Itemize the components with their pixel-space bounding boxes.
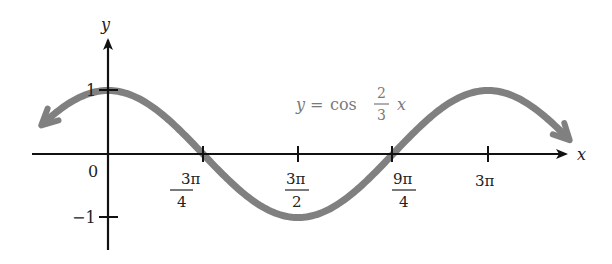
x-tick-3pi-over-4: 3π 4	[170, 146, 203, 211]
x-tick-denominator: 4	[177, 193, 187, 211]
x-tick-denominator: 4	[399, 193, 409, 211]
x-tick-numerator: 9π	[393, 170, 413, 188]
x-tick-numerator: 3π	[286, 170, 306, 188]
x-axis-label: x	[577, 145, 586, 164]
equation-equals: =	[310, 95, 323, 114]
x-tick-denominator: 2	[292, 193, 302, 211]
cosine-graph: x y 0 1 −1 3π 4 3π 2 9π 4 3π y = cos 2	[0, 0, 612, 264]
equation-denominator: 3	[377, 107, 386, 123]
origin-label: 0	[88, 162, 98, 181]
equation-func: cos	[330, 95, 357, 114]
x-tick-3pi: 3π	[475, 146, 495, 190]
x-tick-label: 3π	[475, 172, 495, 190]
y-axis-label: y	[100, 15, 111, 34]
equation-annotation: y = cos 2 3 x	[295, 85, 406, 123]
y-tick-1: 1	[86, 81, 118, 100]
y-tick-label: 1	[86, 81, 96, 100]
y-tick-label: −1	[72, 208, 96, 227]
x-tick-3pi-over-2: 3π 2	[285, 146, 309, 211]
equation-numerator: 2	[377, 85, 386, 101]
equation-lhs: y	[295, 95, 306, 114]
equation-var: x	[397, 95, 406, 114]
y-tick-neg1: −1	[72, 208, 118, 227]
x-tick-numerator: 3π	[181, 170, 201, 188]
